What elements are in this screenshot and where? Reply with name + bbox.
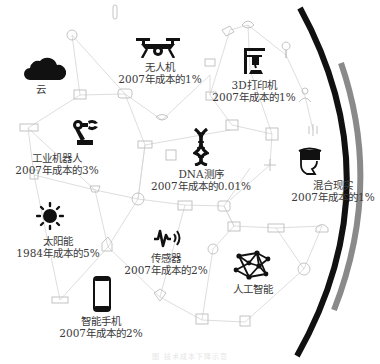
dna-label: DNA测序 2007年成本的0.01% <box>151 168 251 192</box>
node-name: 混合现实 <box>291 179 374 191</box>
node-cost: 2007年成本的1% <box>212 91 295 103</box>
node-name: 工业机器人 <box>15 152 98 164</box>
node-cost: 1984年成本的5% <box>16 247 99 259</box>
ai-label: 人工智能 <box>233 283 273 295</box>
sensor-icon <box>153 228 181 248</box>
figure-caption: 图 技术成本下降示意 <box>0 351 380 361</box>
drone-icon <box>135 36 181 58</box>
3d-printer-icon <box>243 47 267 75</box>
node-name: 太阳能 <box>16 235 99 247</box>
robot-arm-icon <box>72 118 100 146</box>
node-name: 3D打印机 <box>212 79 295 91</box>
solar-label: 太阳能 1984年成本的5% <box>16 235 99 259</box>
cloud-icon <box>24 55 66 81</box>
ai-network-icon <box>233 250 271 280</box>
node-cost: 2007年成本的1% <box>118 73 201 85</box>
robot-label: 工业机器人 2007年成本的3% <box>15 152 98 176</box>
node-cost: 2007年成本的2% <box>124 264 207 276</box>
3d-printer-label: 3D打印机 2007年成本的1% <box>212 79 295 103</box>
smartphone-label: 智能手机 2007年成本的2% <box>59 315 142 339</box>
mixed-reality-headset-icon <box>297 147 323 177</box>
node-name: 智能手机 <box>59 315 142 327</box>
node-name: 人工智能 <box>233 283 273 295</box>
sensor-label: 传感器 2007年成本的2% <box>124 252 207 276</box>
technology-cost-diagram: 云 无人机 2007年成本的1% 3D打印机 2007年成本的1% <box>0 0 380 364</box>
node-cost: 2007年成本的2% <box>59 327 142 339</box>
node-cost: 2007年成本的3% <box>15 164 98 176</box>
sun-icon <box>36 202 64 230</box>
node-cost: 2007年成本的1% <box>291 191 374 203</box>
drone-label: 无人机 2007年成本的1% <box>118 61 201 85</box>
node-name: DNA测序 <box>151 168 251 180</box>
node-name: 无人机 <box>118 61 201 73</box>
node-name: 传感器 <box>124 252 207 264</box>
node-name: 云 <box>36 83 46 95</box>
node-cost: 2007年成本的0.01% <box>151 180 251 192</box>
dna-icon <box>193 128 209 166</box>
cloud-label: 云 <box>36 83 46 95</box>
smartphone-icon <box>93 276 111 312</box>
mixed-reality-label: 混合现实 2007年成本的1% <box>291 179 374 203</box>
